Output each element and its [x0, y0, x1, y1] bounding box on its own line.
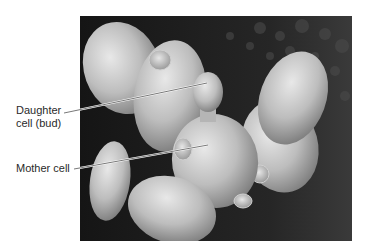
daughter-label-line1: Daughter [16, 104, 61, 117]
daughter-cell [193, 72, 223, 112]
micrograph-photo [80, 16, 352, 241]
mother-label-line1: Mother cell [16, 162, 70, 175]
daughter-label-line2: cell (bud) [16, 117, 61, 130]
daughter-cell-label: Daughter cell (bud) [16, 104, 61, 130]
mother-cell-label: Mother cell [16, 162, 70, 175]
